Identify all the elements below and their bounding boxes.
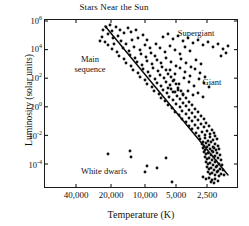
y-tick-exp-2: 2 (39, 72, 42, 78)
annotation-main-sequence-line2: sequence (74, 64, 105, 74)
y-tick-exp-m4: -4 (37, 159, 42, 165)
x-tick-label-5000: 5,000 (166, 190, 186, 200)
y-tick-label-1em2: 10-2 (29, 132, 43, 141)
y-tick-exp-4: 4 (39, 43, 42, 49)
y-tick-label-1e2: 102 (31, 74, 43, 83)
annotation-giant: Giant (194, 77, 230, 87)
annotation-main-sequence-line1: Main (81, 54, 99, 64)
x-tick-label-20000: 20,000 (99, 190, 124, 200)
annotation-main-sequence: Main sequence (64, 54, 116, 74)
x-tick-label-40000: 40,000 (64, 190, 89, 200)
hr-diagram-figure: Stars Near the Sun Luminosity (solar uni… (0, 0, 249, 226)
chart-title: Stars Near the Sun (44, 2, 184, 12)
annotation-supergiant: Supergiant (166, 28, 226, 38)
y-tick-exp-0: 0 (39, 101, 42, 107)
y-tick-label-1e6: 106 (31, 17, 43, 26)
x-axis-title: Temperature (K) (44, 209, 238, 220)
y-tick-label-1e4: 104 (31, 45, 43, 54)
y-tick-label-1e0: 100 (31, 103, 43, 112)
y-axis-tick-labels: 106 104 102 100 10-2 10-4 (0, 0, 42, 226)
x-tick-label-10000: 10,000 (133, 190, 158, 200)
y-tick-exp-m2: -2 (37, 130, 42, 136)
x-tick-label-2500: 2,500 (197, 190, 217, 200)
y-tick-label-1em4: 10-4 (29, 161, 43, 170)
y-tick-exp-6: 6 (39, 15, 42, 21)
plot-area-frame (44, 19, 238, 188)
annotation-white-dwarfs: White dwarfs (70, 166, 138, 176)
